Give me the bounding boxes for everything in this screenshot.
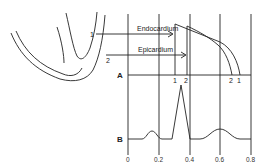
trace-a-marker-2-start: 2	[184, 77, 188, 84]
x-tick-0.6: 0.6	[215, 156, 224, 163]
trace-a-marker-1-start: 1	[173, 77, 177, 84]
x-tick-0.2: 0.2	[154, 156, 163, 163]
trace-a-label: A	[117, 71, 123, 80]
trace-a-epicardium-ap	[187, 26, 232, 75]
endocardium-label: Endocardium	[137, 25, 178, 32]
trace-b-label: B	[117, 135, 123, 144]
x-tick-0.8: 0.8	[246, 156, 255, 163]
ventricle-inner-wall	[57, 27, 64, 63]
wall-marker-2: 2	[106, 57, 110, 64]
ventricle-outer-wall-inner	[16, 31, 82, 76]
ventricle-outer-wall	[11, 15, 105, 81]
trace-a-marker-2-end: 2	[229, 77, 233, 84]
epicardium-label: Epicardium	[138, 46, 173, 54]
action-potential-diagram: Endocardium Epicardium 1 2 1 2 2 1 A B 0…	[0, 0, 264, 167]
trace-a-marker-1-end: 1	[237, 77, 241, 84]
x-tick-0: 0	[126, 156, 130, 163]
trace-b-ecg	[128, 85, 251, 139]
x-tick-0.4: 0.4	[185, 156, 194, 163]
wall-marker-1: 1	[90, 31, 94, 38]
